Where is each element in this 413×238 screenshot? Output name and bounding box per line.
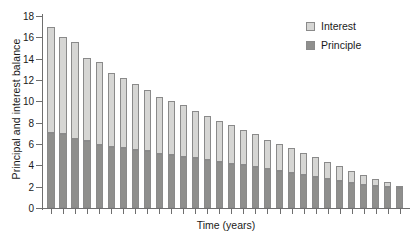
bar-segment-principal: [276, 171, 283, 208]
bar-segment-principal: [204, 160, 211, 208]
bar-segment-principal: [192, 158, 199, 208]
bar-segment-interest: [288, 148, 295, 173]
y-axis-tick-label: 2: [14, 181, 34, 192]
legend-item-label: Principle: [321, 39, 361, 51]
x-axis-tick: [207, 209, 208, 214]
bar-stack: [396, 187, 403, 208]
x-axis-tick: [171, 209, 172, 214]
bar-segment-principal: [96, 145, 103, 208]
bar-segment-interest: [372, 179, 379, 186]
x-axis-tick: [304, 209, 305, 214]
bar-segment-principal: [300, 175, 307, 208]
bar-stack: [168, 101, 175, 208]
x-axis-tick: [400, 209, 401, 214]
bar-segment-interest: [132, 84, 139, 150]
y-axis-tick: [36, 208, 42, 209]
bar-segment-principal: [396, 188, 403, 208]
bar-segment-interest: [228, 125, 235, 163]
bar-stack: [312, 157, 319, 208]
legend-item: Interest: [306, 20, 361, 32]
x-axis-tick: [316, 209, 317, 214]
x-axis-tick: [388, 209, 389, 214]
x-axis-tick: [364, 209, 365, 214]
bar-segment-principal: [168, 155, 175, 208]
bar-segment-principal: [360, 185, 367, 208]
x-axis-tick: [195, 209, 196, 214]
bar-stack: [216, 121, 223, 208]
bar-segment-interest: [47, 27, 54, 134]
bar-segment-principal: [336, 181, 343, 208]
legend-item: Principle: [306, 39, 361, 51]
y-axis-tick-label: 8: [14, 117, 34, 128]
bar-stack: [360, 175, 367, 208]
x-axis-tick: [99, 209, 100, 214]
bar-stack: [96, 62, 103, 208]
bar-stack: [228, 125, 235, 208]
bar-segment-interest: [96, 62, 103, 145]
bar-segment-interest: [348, 171, 355, 183]
bar-stack: [204, 116, 211, 208]
bar-segment-interest: [108, 73, 115, 147]
y-axis-tick-label: 10: [14, 96, 34, 107]
bar-segment-principal: [384, 187, 391, 208]
legend-swatch-icon: [306, 22, 315, 31]
bar-segment-interest: [204, 116, 211, 160]
bar-stack: [132, 84, 139, 208]
bar-segment-interest: [180, 105, 187, 157]
bar-segment-principal: [71, 139, 78, 208]
x-axis-tick: [267, 209, 268, 214]
bar-segment-interest: [83, 58, 90, 141]
bar-segment-principal: [240, 165, 247, 208]
bar-segment-interest: [71, 42, 78, 139]
x-axis-line: [42, 208, 410, 209]
bar-segment-interest: [168, 101, 175, 155]
y-axis-tick-label: 4: [14, 160, 34, 171]
bar-stack: [276, 144, 283, 208]
x-axis-tick: [75, 209, 76, 214]
bar-segment-principal: [288, 173, 295, 208]
bar-stack: [47, 27, 54, 208]
y-axis-tick-label: 6: [14, 139, 34, 150]
bar-segment-principal: [156, 154, 163, 208]
x-axis-tick: [123, 209, 124, 214]
bar-segment-interest: [144, 90, 151, 151]
y-axis-tick-label: 16: [14, 32, 34, 43]
x-axis-title: Time (years): [42, 219, 410, 231]
bar-stack: [336, 166, 343, 208]
bar-segment-principal: [228, 164, 235, 208]
x-axis-tick: [292, 209, 293, 214]
bar-segment-interest: [276, 144, 283, 171]
x-axis-tick: [147, 209, 148, 214]
bar-stack: [71, 42, 78, 208]
y-axis-tick-label: 14: [14, 53, 34, 64]
bar-segment-interest: [312, 157, 319, 177]
x-axis-tick: [255, 209, 256, 214]
bar-segment-interest: [192, 111, 199, 158]
x-axis-tick: [87, 209, 88, 214]
x-axis-tick: [51, 209, 52, 214]
bar-stack: [83, 58, 90, 208]
x-axis-tick: [340, 209, 341, 214]
bar-stack: [120, 78, 127, 208]
bar-segment-principal: [264, 169, 271, 208]
bar-stack: [384, 182, 391, 208]
legend-swatch-icon: [306, 41, 315, 50]
bar-segment-principal: [312, 177, 319, 208]
x-axis-tick: [111, 209, 112, 214]
bar-segment-principal: [132, 150, 139, 208]
x-axis-tick: [231, 209, 232, 214]
x-axis-tick: [159, 209, 160, 214]
bar-segment-interest: [240, 130, 247, 165]
bar-segment-interest: [156, 97, 163, 154]
bar-segment-interest: [324, 162, 331, 179]
bar-stack: [180, 105, 187, 208]
bar-segment-principal: [108, 147, 115, 208]
bar-stack: [324, 162, 331, 208]
bar-stack: [108, 73, 115, 208]
bar-segment-principal: [120, 148, 127, 208]
bar-stack: [252, 134, 259, 208]
bar-stack: [348, 171, 355, 208]
y-axis-tick-label: 0: [14, 203, 34, 214]
bar-stack: [372, 179, 379, 208]
x-axis-tick: [135, 209, 136, 214]
